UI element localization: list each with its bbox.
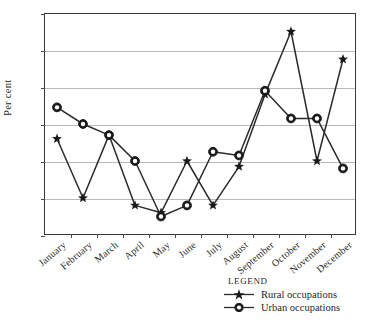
data-point-circle-center [55,105,59,109]
series-line [57,32,343,213]
data-point-circle-center [81,122,85,126]
data-point-circle-center [263,89,267,93]
data-point-circle-center [159,214,163,218]
legend-title: Legend [228,276,340,286]
legend: Legend Rural occupations Urban occupatio… [222,276,340,314]
data-point-circle-center [289,116,293,120]
circle-marker-icon [222,301,256,314]
data-point-circle-center [341,166,345,170]
data-point-star [130,200,140,209]
legend-item-rural: Rural occupations [222,288,340,301]
data-series-layer [44,13,356,235]
legend-label-urban: Urban occupations [261,302,340,313]
series-rural [52,26,348,217]
data-point-circle-center [133,159,137,163]
data-point-star [78,193,88,202]
series-line [57,91,343,217]
data-point-circle-center [315,116,319,120]
data-point-circle-center [237,153,241,157]
data-point-circle-center [185,203,189,207]
y-axis-tick [41,236,45,237]
series-urban [53,86,348,221]
data-point-circle-center [107,133,111,137]
star-marker-icon [222,288,256,301]
legend-item-urban: Urban occupations [222,301,340,314]
chart-root: Per cent 6789101112 JanuaryFebruaryMarch… [0,0,371,322]
legend-label-rural: Rural occupations [261,289,337,300]
y-axis-title: Per cent [2,79,13,116]
data-point-circle-center [211,150,215,154]
data-point-star [234,161,244,170]
data-point-star [52,134,62,143]
data-point-star [312,156,322,165]
data-point-star [182,156,192,165]
data-point-star [208,200,218,209]
